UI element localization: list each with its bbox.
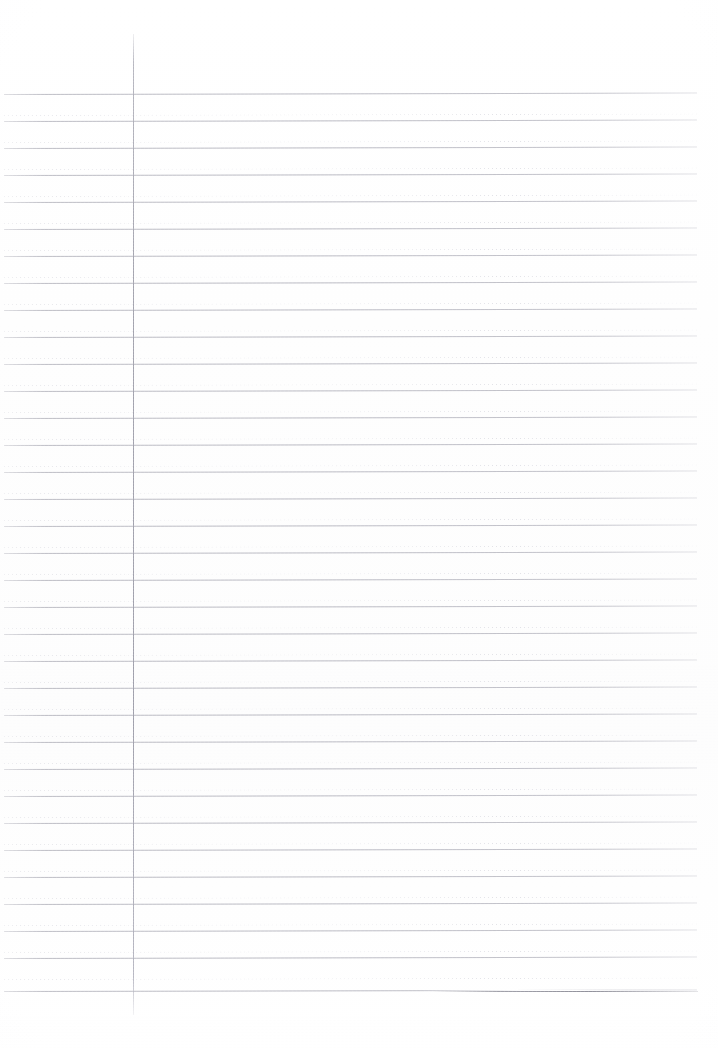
- solid-rule-line: [4, 390, 697, 392]
- vertical-margin-line: [133, 34, 134, 1015]
- dotted-guide-line: [4, 816, 697, 818]
- solid-rule-line: [4, 687, 697, 689]
- solid-rule-line: [4, 930, 697, 932]
- dotted-guide-line: [4, 897, 697, 899]
- solid-rule-line: [4, 660, 697, 662]
- dotted-guide-line: [4, 303, 697, 305]
- solid-rule-line: [4, 255, 697, 257]
- dotted-guide-line: [4, 519, 697, 521]
- solid-rule-line: [4, 990, 697, 992]
- solid-rule-line: [4, 174, 697, 176]
- dotted-guide-line: [4, 411, 697, 413]
- solid-rule-line: [4, 120, 697, 122]
- solid-rule-line: [4, 336, 697, 338]
- solid-rule-line: [4, 957, 697, 959]
- solid-rule-line: [4, 822, 697, 824]
- dotted-guide-line: [4, 114, 697, 116]
- solid-rule-line: [4, 903, 697, 905]
- dotted-guide-line: [4, 222, 697, 224]
- solid-rule-line: [4, 633, 697, 635]
- dotted-guide-line: [4, 492, 697, 494]
- dotted-guide-line: [4, 924, 697, 926]
- solid-rule-line: [4, 309, 697, 311]
- dotted-guide-line: [4, 843, 697, 845]
- dotted-guide-line: [4, 438, 697, 440]
- dotted-guide-line: [4, 276, 697, 278]
- dotted-guide-line: [4, 357, 697, 359]
- dotted-guide-line: [4, 789, 697, 791]
- dotted-guide-line: [4, 951, 697, 953]
- dotted-guide-line: [4, 627, 697, 629]
- dotted-guide-line: [4, 249, 697, 251]
- solid-rule-line: [4, 93, 697, 95]
- dotted-guide-line: [4, 330, 697, 332]
- solid-rule-line: [4, 417, 697, 419]
- solid-rule-line: [4, 579, 697, 581]
- dotted-guide-line: [4, 384, 697, 386]
- solid-rule-line: [4, 714, 697, 716]
- dotted-guide-line: [4, 870, 697, 872]
- ruled-lines-layer: [0, 0, 718, 1048]
- solid-rule-line: [4, 471, 697, 473]
- solid-rule-line: [4, 768, 697, 770]
- dotted-guide-line: [4, 681, 697, 683]
- solid-rule-line: [4, 444, 697, 446]
- dotted-guide-line: [4, 762, 697, 764]
- dotted-guide-line: [4, 600, 697, 602]
- solid-rule-line: [4, 741, 697, 743]
- dotted-guide-line: [4, 978, 697, 980]
- dotted-guide-line: [4, 708, 697, 710]
- dotted-guide-line: [4, 141, 697, 143]
- solid-rule-line: [4, 228, 697, 230]
- solid-rule-line: [4, 552, 697, 554]
- dotted-guide-line: [4, 465, 697, 467]
- solid-rule-line: [4, 147, 697, 149]
- solid-rule-line: [4, 201, 697, 203]
- solid-rule-line: [4, 849, 697, 851]
- dotted-guide-line: [4, 195, 697, 197]
- scanned-paper-page: [0, 0, 718, 1048]
- solid-rule-line: [4, 498, 697, 500]
- solid-rule-line: [4, 282, 697, 284]
- dotted-guide-line: [4, 168, 697, 170]
- solid-rule-line: [4, 606, 697, 608]
- dotted-guide-line: [4, 573, 697, 575]
- dotted-guide-line: [4, 735, 697, 737]
- dotted-guide-line: [4, 654, 697, 656]
- solid-rule-line: [4, 363, 697, 365]
- solid-rule-line: [4, 795, 697, 797]
- solid-rule-line: [4, 876, 697, 878]
- solid-rule-line: [4, 525, 697, 527]
- dotted-guide-line: [4, 546, 697, 548]
